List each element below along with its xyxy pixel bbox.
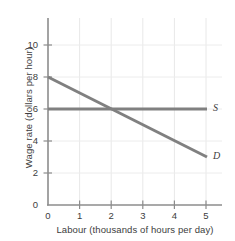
demand-curve-label: D [213,150,220,161]
y-tick-label-4: 4 [16,135,38,146]
x-tick-label-2: 2 [101,210,121,221]
y-tick-label-2: 2 [16,167,38,178]
y-tick-label-8: 8 [16,71,38,82]
x-tick-label-4: 4 [164,210,184,221]
x-tick-label-1: 1 [70,210,90,221]
y-tick-label-0: 0 [16,199,38,210]
y-tick-label-6: 6 [16,103,38,114]
vertical-gridlines [80,18,206,205]
x-tick-label-3: 3 [133,210,153,221]
axis-lines [47,18,222,206]
demand-curve [48,77,207,157]
labour-market-chart: Wage rate (dollars per hour) Labour (tho… [0,0,235,241]
x-tick-label-5: 5 [196,210,216,221]
y-tick-label-10: 10 [16,39,38,50]
supply-curve-label: S [213,102,218,113]
x-axis-title: Labour (thousands of hours per day) [40,224,230,235]
x-tick-label-0: 0 [38,210,58,221]
